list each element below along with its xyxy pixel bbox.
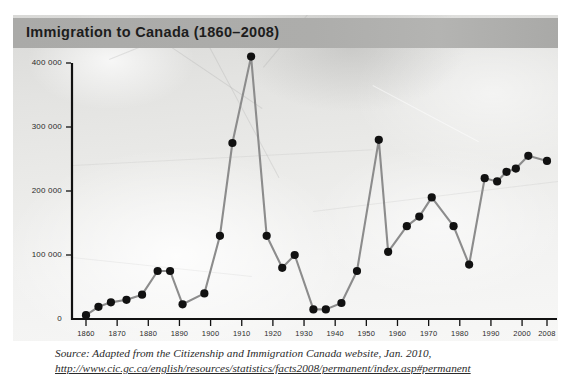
y-axis-tick-label: 100 000 xyxy=(0,250,62,259)
y-axis-tick-label: 200 000 xyxy=(0,186,62,195)
y-axis-tick-label: 0 xyxy=(0,314,62,323)
chart-title: Immigration to Canada (1860–2008) xyxy=(26,24,279,40)
source-caption: Source: Adapted from the Citizenship and… xyxy=(55,346,560,375)
x-axis-tick-label: 2008 xyxy=(527,329,567,338)
y-axis-tick-label: 400 000 xyxy=(0,58,62,67)
chart-panel xyxy=(13,15,558,341)
panel-background-photo xyxy=(13,15,558,341)
y-axis-tick-label: 300 000 xyxy=(0,122,62,131)
figure-root: Immigration to Canada (1860–2008) 0100 0… xyxy=(0,0,583,378)
source-url-link[interactable]: http://www.cic.gc.ca/english/resources/s… xyxy=(55,362,471,374)
source-line: Source: Adapted from the Citizenship and… xyxy=(55,346,560,361)
